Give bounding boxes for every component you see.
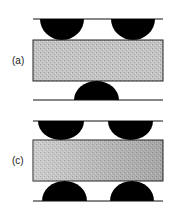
specimen-shading bbox=[33, 140, 163, 181]
panel-a bbox=[33, 19, 163, 100]
top-left-roller bbox=[38, 121, 84, 140]
bending-test-diagram bbox=[0, 0, 181, 213]
top-left-roller bbox=[40, 19, 84, 40]
top-right-roller bbox=[111, 19, 155, 40]
bottom-left-roller bbox=[42, 181, 87, 201]
bottom-center-roller bbox=[74, 81, 119, 100]
bottom-right-roller bbox=[110, 181, 154, 201]
specimen-bar bbox=[33, 40, 163, 81]
top-right-roller bbox=[108, 121, 153, 140]
panel-c bbox=[33, 121, 163, 201]
panel-c-label: (c) bbox=[12, 156, 24, 166]
panel-a-label: (a) bbox=[12, 56, 24, 66]
